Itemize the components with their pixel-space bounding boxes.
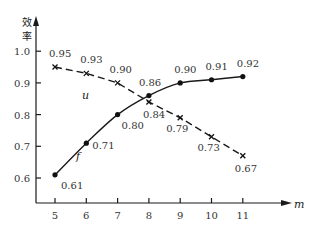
y-tick-label: 0.8 bbox=[14, 110, 30, 121]
dot-marker-icon bbox=[52, 172, 57, 177]
efficiency-chart: 效 率 m 0.60.70.80.91.0567891011 0.950.930… bbox=[0, 0, 315, 233]
series-name-label: u bbox=[82, 89, 89, 102]
series-f: 0.610.710.800.860.900.910.92f bbox=[52, 58, 259, 191]
y-tick-label: 1.0 bbox=[14, 46, 30, 57]
x-marker-icon bbox=[178, 115, 183, 120]
x-tick-label: 10 bbox=[205, 210, 218, 221]
x-tick-label: 9 bbox=[177, 210, 183, 221]
dot-marker-icon bbox=[209, 77, 214, 82]
x-tick-label: 5 bbox=[52, 210, 58, 221]
x-tick-label: 11 bbox=[236, 210, 249, 221]
dot-marker-icon bbox=[115, 112, 120, 117]
x-marker-icon bbox=[115, 80, 120, 85]
x-tick-label: 7 bbox=[114, 210, 120, 221]
data-label: 0.90 bbox=[174, 64, 196, 75]
x-marker-icon bbox=[146, 99, 151, 104]
data-label: 0.90 bbox=[110, 64, 132, 75]
data-label: 0.84 bbox=[143, 109, 165, 120]
y-axis-arrow-icon bbox=[33, 16, 39, 26]
data-label: 0.92 bbox=[237, 58, 259, 69]
y-tick-label: 0.6 bbox=[14, 173, 30, 184]
dot-marker-icon bbox=[84, 141, 89, 146]
x-marker-icon bbox=[240, 153, 245, 158]
data-label: 0.79 bbox=[166, 123, 188, 134]
x-axis-arrow-icon bbox=[281, 200, 292, 206]
x-marker-icon bbox=[209, 134, 214, 139]
data-label: 0.80 bbox=[122, 120, 144, 131]
y-axis-title-line2: 率 bbox=[22, 30, 32, 42]
dot-marker-icon bbox=[146, 93, 151, 98]
data-label: 0.71 bbox=[92, 140, 114, 151]
data-label: 0.67 bbox=[235, 163, 257, 174]
x-tick-label: 8 bbox=[146, 210, 152, 221]
y-axis-title-line1: 效 bbox=[22, 16, 32, 28]
dot-marker-icon bbox=[240, 74, 245, 79]
data-label: 0.61 bbox=[61, 180, 83, 191]
x-axis-title: m bbox=[294, 198, 304, 211]
x-tick-label: 6 bbox=[83, 210, 89, 221]
data-label: 0.91 bbox=[206, 61, 228, 72]
series-name-label: f bbox=[75, 150, 82, 163]
data-label: 0.95 bbox=[49, 48, 71, 59]
data-label: 0.73 bbox=[198, 142, 220, 153]
y-tick-label: 0.9 bbox=[14, 78, 30, 89]
data-label: 0.86 bbox=[139, 77, 161, 88]
dot-marker-icon bbox=[178, 80, 183, 85]
data-label: 0.93 bbox=[80, 54, 102, 65]
y-tick-label: 0.7 bbox=[14, 141, 30, 152]
series-layer: 0.950.930.900.840.790.730.67u0.610.710.8… bbox=[49, 48, 259, 191]
